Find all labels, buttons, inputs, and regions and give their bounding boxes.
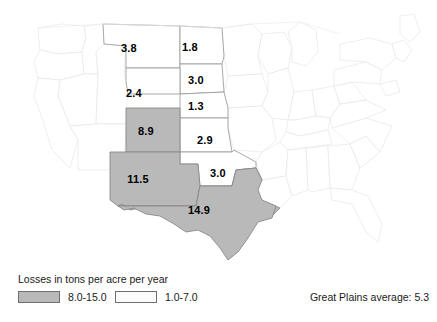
state-maine	[400, 14, 420, 42]
state-wisconsin	[258, 32, 292, 74]
great-plains-average-annotation: Great Plains average: 5.3	[310, 292, 429, 303]
erosion-losses-map-figure: 3.8 1.8 3.0 2.4 1.3 8.9 2.9 11.5 3.0 14.…	[0, 0, 437, 322]
state-michigan	[288, 22, 318, 66]
legend-swatch-high	[18, 291, 60, 303]
region-label-montana: 3.8	[121, 43, 137, 54]
state-oregon	[34, 50, 84, 80]
state-maryland-delaware	[380, 80, 400, 96]
state-florida	[330, 188, 382, 242]
region-label-wyoming: 2.4	[126, 88, 142, 99]
region-label-kansas: 2.9	[197, 135, 213, 146]
state-washington	[38, 24, 86, 54]
legend-label-high: 8.0-15.0	[68, 291, 107, 303]
state-minnesota	[222, 24, 262, 76]
state-alabama	[306, 146, 330, 192]
region-label-oklahoma: 3.0	[210, 168, 226, 179]
region-label-nebraska: 1.3	[188, 101, 204, 112]
state-iowa	[224, 74, 268, 108]
legend-title: Losses in tons per acre per year	[18, 274, 168, 285]
state-illinois	[262, 68, 294, 120]
region-label-south-dakota: 3.0	[188, 75, 204, 86]
united-states-choropleth-map	[0, 0, 437, 268]
legend-label-low: 1.0-7.0	[165, 291, 198, 303]
map-legend: Losses in tons per acre per year 8.0-15.…	[18, 274, 278, 310]
map-area: 3.8 1.8 3.0 2.4 1.3 8.9 2.9 11.5 3.0 14.…	[0, 0, 437, 268]
region-label-colorado: 8.9	[138, 126, 154, 137]
state-utah	[96, 44, 128, 124]
region-label-north-dakota: 1.8	[182, 42, 198, 53]
region-label-new-mexico: 11.5	[127, 174, 149, 185]
state-west-virginia	[334, 82, 366, 104]
region-label-texas: 14.9	[188, 205, 210, 216]
legend-swatch-low	[115, 291, 157, 303]
